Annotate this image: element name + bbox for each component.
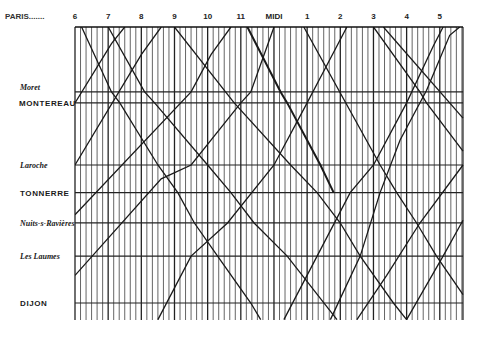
hour-tick-label: 10 — [203, 12, 212, 21]
station-label-tonnerre: TONNERRE — [20, 189, 70, 198]
hour-tick-label: 4 — [404, 12, 409, 21]
train-down-2 — [108, 27, 337, 320]
train-schedule-chart: 67891011MIDI12345 MoretMONTEREAULarocheT… — [0, 0, 483, 341]
hour-tick-label: 9 — [172, 12, 177, 21]
station-label-les-laumes: Les Laumes — [19, 252, 60, 261]
hour-tick-label: 2 — [338, 12, 343, 21]
hour-tick-label: 5 — [438, 12, 443, 21]
hour-tick-label: 3 — [371, 12, 376, 21]
hour-tick-labels: 67891011MIDI12345 — [73, 12, 443, 21]
station-label-moret: Moret — [19, 83, 41, 92]
train-down-4 — [304, 27, 463, 295]
train-lines — [75, 27, 463, 320]
hour-tick-label: 11 — [237, 12, 246, 21]
hour-tick-label: 7 — [106, 12, 111, 21]
station-label-paris: PARIS....... — [5, 12, 44, 21]
hour-tick-label: 1 — [305, 12, 310, 21]
hour-tick-label: 6 — [73, 12, 78, 21]
station-label-dijon: DIJON — [20, 299, 47, 308]
hour-tick-label: 8 — [139, 12, 144, 21]
station-label-montereau: MONTEREAU — [19, 99, 76, 108]
station-label-laroche: Laroche — [19, 161, 48, 170]
train-down-5 — [374, 27, 464, 151]
hour-tick-label: MIDI — [266, 12, 283, 21]
train-up-9 — [407, 220, 463, 319]
station-labels: MoretMONTEREAULarocheTONNERRENuits-s-Rav… — [19, 83, 76, 308]
station-label-nuits-s-ravi-res: Nuits-s-Ravières — [19, 219, 75, 228]
